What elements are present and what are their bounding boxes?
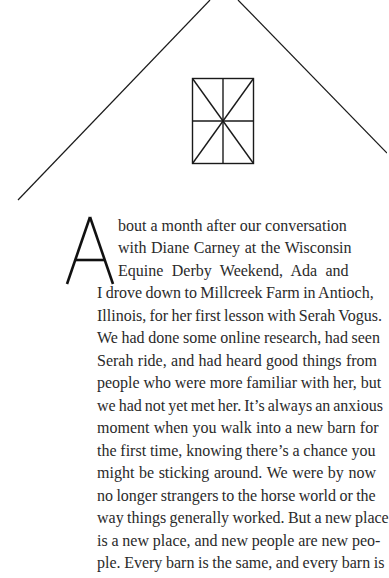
text-line: might be sticking around. We were by now	[97, 463, 376, 483]
text-line: moment when you walk into a new barn for	[97, 418, 379, 438]
roof-left-line	[18, 0, 210, 200]
window-icon	[193, 79, 254, 164]
roof-right-line	[238, 0, 387, 153]
text-line: We had done some online research, had se…	[97, 328, 380, 348]
drop-cap-letter: A	[64, 214, 116, 286]
text-line: I drove down to Millcreek Farm in Antioc…	[97, 283, 374, 303]
text-line: people who were more familiar with her, …	[97, 373, 381, 393]
text-line: way things generally worked. But a new p…	[97, 508, 389, 528]
text-line: with Diane Carney at the Wisconsin	[118, 238, 352, 258]
text-line: bout a month after our conversation	[118, 216, 347, 236]
text-line: is a new place, and new people are new p…	[97, 531, 380, 551]
text-line: we had not yet met her. It’s always an a…	[97, 396, 383, 416]
text-line: ple. Every barn is the same, and every b…	[97, 553, 384, 573]
text-line: the first time, knowing there’s a chance…	[97, 441, 376, 461]
text-line: Illinois, for her first lesson with Sera…	[97, 306, 382, 326]
text-line: no longer strangers to the horse world o…	[97, 486, 376, 506]
text-line: Serah ride, and had heard good things fr…	[97, 351, 377, 371]
text-line: Equine Derby Weekend, Ada and	[118, 261, 349, 281]
